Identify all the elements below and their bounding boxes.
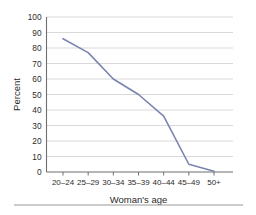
y-axis-title: Percent [11, 78, 22, 111]
y-tick-label: 80 [32, 43, 42, 53]
x-tick-label: 40–44 [153, 178, 176, 187]
x-tick-label: 50+ [207, 178, 221, 187]
data-series-line [63, 39, 214, 172]
x-tick-label: 20–24 [52, 178, 75, 187]
y-tick-label: 100 [28, 12, 42, 22]
x-axis-tick-labels: 20–2425–2930–3435–3940–4445–4950+ [52, 172, 221, 187]
y-tick-label: 60 [32, 74, 42, 84]
y-tick-label: 40 [32, 105, 42, 115]
x-tick-label: 35–39 [127, 178, 150, 187]
y-tick-label: 70 [32, 59, 42, 69]
line-chart: 010203040506070809010020–2425–2930–3435–… [0, 0, 256, 215]
x-tick-label: 30–34 [102, 178, 125, 187]
y-tick-label: 30 [32, 121, 42, 131]
y-axis-tick-labels: 0102030405060708090100 [28, 12, 42, 177]
y-tick-label: 10 [32, 152, 42, 162]
figure-panel: 010203040506070809010020–2425–2930–3435–… [0, 0, 256, 215]
y-tick-label: 50 [32, 90, 42, 100]
x-tick-label: 45–49 [178, 178, 201, 187]
x-axis-title: Woman's age [110, 194, 168, 205]
x-tick-label: 25–29 [77, 178, 100, 187]
y-tick-label: 20 [32, 136, 42, 146]
gridlines [47, 17, 234, 157]
y-tick-label: 90 [32, 28, 42, 38]
y-tick-label: 0 [37, 167, 42, 177]
